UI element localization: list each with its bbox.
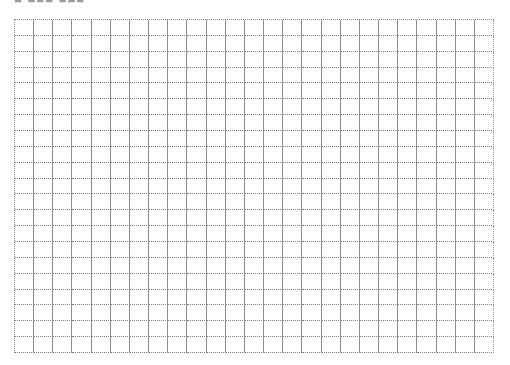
grid-cell	[187, 321, 206, 337]
grid-cell	[283, 147, 302, 163]
grid-cell	[245, 147, 264, 163]
grid-cell	[130, 337, 149, 353]
grid-cell	[111, 305, 130, 321]
grid-cell	[379, 274, 398, 290]
grid-cell	[264, 68, 283, 84]
grid-cell	[168, 210, 187, 226]
grid-cell	[53, 163, 72, 179]
grid-cell	[360, 242, 379, 258]
grid-cell	[475, 20, 494, 36]
grid-cell	[207, 52, 226, 68]
grid-cell	[456, 226, 475, 242]
grid-cell	[417, 147, 436, 163]
grid-cell	[130, 305, 149, 321]
grid-cell	[283, 20, 302, 36]
grid-cell	[360, 210, 379, 226]
grid-cell	[72, 226, 91, 242]
grid-cell	[417, 99, 436, 115]
grid-cell	[475, 36, 494, 52]
grid-cell	[322, 321, 341, 337]
grid-cell	[245, 321, 264, 337]
grid-cell	[92, 226, 111, 242]
grid-cell	[475, 83, 494, 99]
grid-cell	[302, 305, 321, 321]
grid-cell	[226, 147, 245, 163]
grid-cell	[379, 68, 398, 84]
grid-cell	[72, 163, 91, 179]
grid-cell	[360, 321, 379, 337]
grid-cell	[379, 131, 398, 147]
grid-cell	[398, 274, 417, 290]
grid-cell	[322, 210, 341, 226]
grid-cell	[437, 337, 456, 353]
grid-cell	[264, 99, 283, 115]
grid-cell	[245, 83, 264, 99]
grid-cell	[475, 274, 494, 290]
grid-cell	[302, 274, 321, 290]
grid-cell	[111, 163, 130, 179]
grid-cell	[226, 179, 245, 195]
grid-cell	[130, 210, 149, 226]
grid-cell	[34, 210, 53, 226]
grid-cell	[245, 163, 264, 179]
grid-cell	[149, 210, 168, 226]
grid-cell	[475, 242, 494, 258]
grid-cell	[187, 83, 206, 99]
grid-cell	[417, 36, 436, 52]
grid-cell	[283, 115, 302, 131]
grid-cell	[360, 20, 379, 36]
grid-cell	[456, 258, 475, 274]
grid-cell	[92, 68, 111, 84]
grid-cell	[437, 99, 456, 115]
grid-cell	[187, 52, 206, 68]
grid-cell	[130, 163, 149, 179]
grid-cell	[398, 321, 417, 337]
grid-cell	[226, 290, 245, 306]
grid-cell	[341, 83, 360, 99]
grid-cell	[168, 52, 187, 68]
grid-cell	[72, 258, 91, 274]
grid-cell	[264, 337, 283, 353]
grid-cell	[264, 163, 283, 179]
grid-cell	[207, 68, 226, 84]
grid-cell	[92, 290, 111, 306]
grid-cell	[92, 305, 111, 321]
grid-cell	[341, 242, 360, 258]
grid-cell	[302, 226, 321, 242]
grid-cell	[341, 337, 360, 353]
grid-cell	[456, 321, 475, 337]
grid-cell	[264, 83, 283, 99]
grid-cell	[226, 226, 245, 242]
grid-cell	[15, 163, 34, 179]
grid-cell	[53, 179, 72, 195]
grid-cell	[302, 194, 321, 210]
grid-cell	[92, 20, 111, 36]
grid-cell	[341, 258, 360, 274]
grid-cell	[283, 163, 302, 179]
grid-cell	[417, 131, 436, 147]
grid-cell	[475, 321, 494, 337]
grid-cell	[149, 226, 168, 242]
grid-cell	[15, 36, 34, 52]
grid-cell	[283, 131, 302, 147]
grid-cell	[168, 68, 187, 84]
grid-cell	[72, 83, 91, 99]
grid-cell	[207, 210, 226, 226]
grid-cell	[341, 36, 360, 52]
grid-cell	[15, 274, 34, 290]
grid-cell	[322, 337, 341, 353]
grid-cell	[72, 20, 91, 36]
grid-cell	[92, 210, 111, 226]
grid-cell	[322, 99, 341, 115]
grid-cell	[379, 337, 398, 353]
grid-cell	[226, 163, 245, 179]
grid-cell	[322, 36, 341, 52]
grid-page: ■ ■■■ ■■■	[0, 0, 510, 365]
grid-cell	[360, 226, 379, 242]
grid-cell	[264, 147, 283, 163]
grid-cell	[245, 194, 264, 210]
grid-cell	[53, 290, 72, 306]
grid-cell	[283, 68, 302, 84]
grid-cell	[302, 210, 321, 226]
grid-cell	[379, 290, 398, 306]
